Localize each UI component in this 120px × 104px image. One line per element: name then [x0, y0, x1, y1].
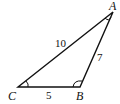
side-label-ca: 10 — [55, 37, 67, 49]
vertex-label-c: C — [8, 89, 17, 103]
vertex-label-a: A — [108, 0, 117, 13]
side-label-cb: 5 — [46, 89, 52, 101]
triangle-abc — [18, 12, 113, 87]
side-label-ab: 7 — [97, 51, 103, 63]
angle-mark-c — [26, 81, 28, 87]
vertex-label-b: B — [76, 89, 84, 103]
triangle-diagram: A B C 10 7 5 — [0, 0, 120, 104]
